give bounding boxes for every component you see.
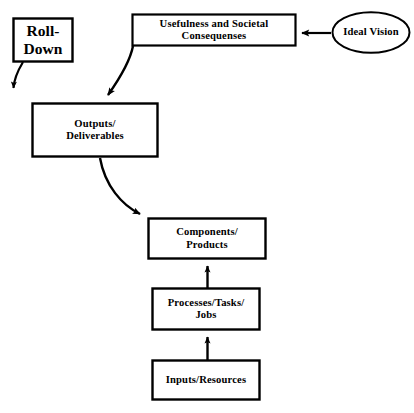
node-usefulness[interactable]: [133, 15, 296, 46]
node-roll-down[interactable]: [14, 19, 73, 62]
diagram-canvas: [0, 0, 414, 413]
edge-outputs-to-components: [100, 158, 140, 214]
node-components[interactable]: [149, 219, 266, 259]
node-outputs[interactable]: [33, 104, 158, 157]
node-processes[interactable]: [153, 289, 260, 330]
node-inputs[interactable]: [153, 361, 260, 400]
edge-roll-down-arrow: [14, 62, 24, 88]
node-ideal-vision[interactable]: [333, 12, 410, 52]
edge-usefulness-to-outputs: [108, 46, 133, 95]
